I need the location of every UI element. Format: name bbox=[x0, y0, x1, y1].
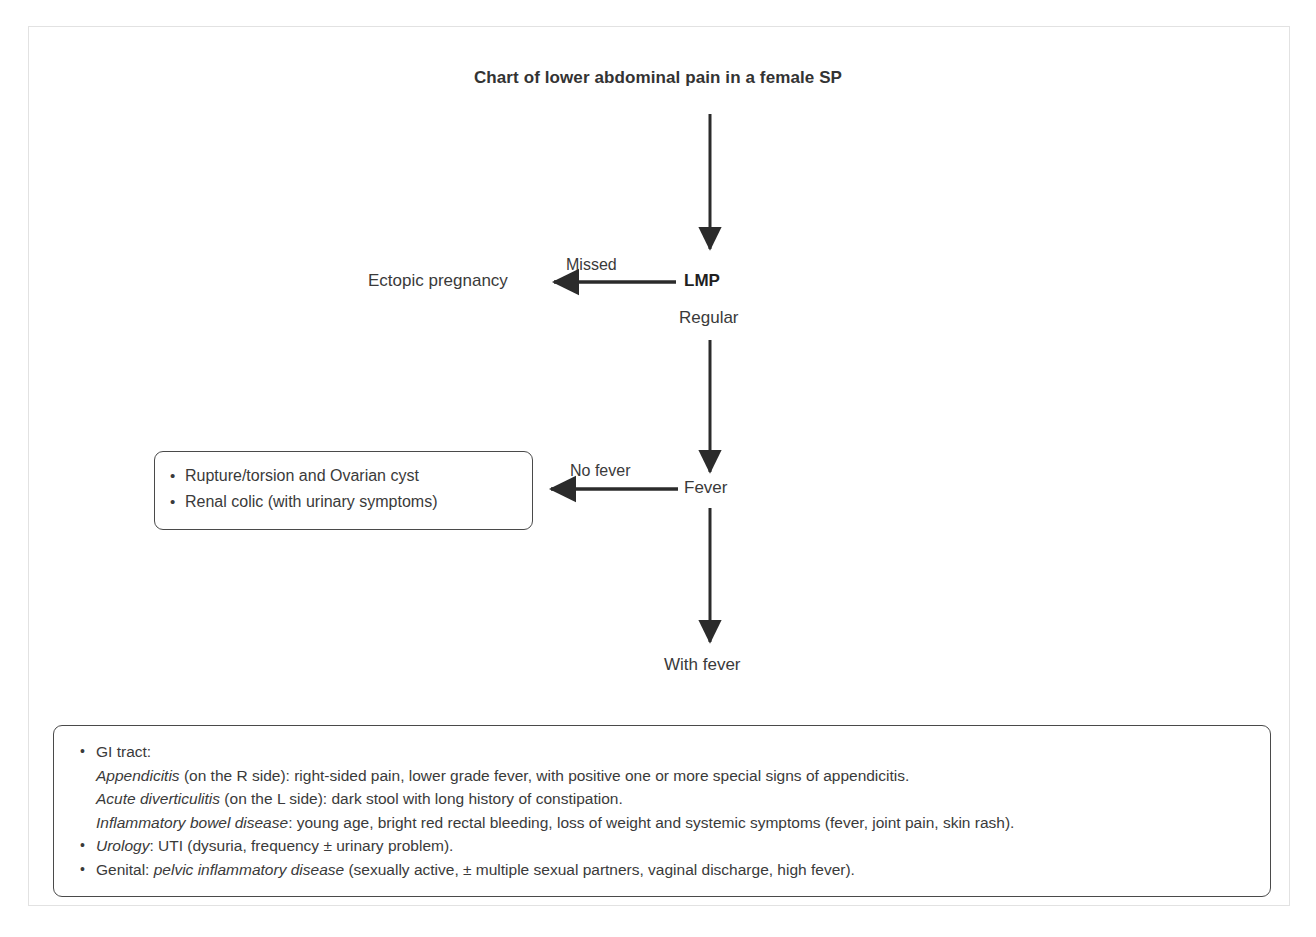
detail-heading-gi-tract: GI tract: bbox=[96, 740, 1270, 764]
desc-inflammatory-bowel-disease: : young age, bright red rectal bleeding,… bbox=[288, 814, 1014, 831]
list-item: Rupture/torsion and Ovarian cyst bbox=[185, 463, 532, 489]
detail-line-appendicitis: Appendicitis (on the R side): right-side… bbox=[96, 764, 1270, 788]
page-title: Chart of lower abdominal pain in a femal… bbox=[0, 68, 1316, 88]
detail-box: GI tract: Appendicitis (on the R side): … bbox=[53, 725, 1271, 897]
list-item: Renal colic (with urinary symptoms) bbox=[185, 489, 532, 515]
term-genital: Genital: bbox=[96, 861, 154, 878]
node-with-fever: With fever bbox=[664, 655, 741, 675]
node-fever: Fever bbox=[684, 478, 727, 498]
detail-line-inflammatory-bowel-disease: Inflammatory bowel disease: young age, b… bbox=[96, 811, 1270, 835]
outcome-box: Rupture/torsion and Ovarian cyst Renal c… bbox=[154, 451, 533, 530]
diagram-page: Chart of lower abdominal pain in a femal… bbox=[0, 0, 1316, 937]
term-urology: Urology bbox=[96, 837, 149, 854]
edge-label-no-fever: No fever bbox=[570, 462, 630, 480]
desc-appendicitis: (on the R side): right-sided pain, lower… bbox=[180, 767, 910, 784]
desc-urology: : UTI (dysuria, frequency ± urinary prob… bbox=[149, 837, 453, 854]
list-item-gi-tract: GI tract: Appendicitis (on the R side): … bbox=[96, 740, 1270, 834]
term-pelvic-inflammatory-disease: pelvic inflammatory disease bbox=[154, 861, 344, 878]
edge-label-missed: Missed bbox=[566, 256, 617, 274]
detail-line-acute-diverticulitis: Acute diverticulitis (on the L side): da… bbox=[96, 787, 1270, 811]
desc-genital: (sexually active, ± multiple sexual part… bbox=[344, 861, 855, 878]
term-inflammatory-bowel-disease: Inflammatory bowel disease bbox=[96, 814, 288, 831]
detail-list: GI tract: Appendicitis (on the R side): … bbox=[54, 726, 1270, 881]
list-item-genital: Genital: pelvic inflammatory disease (se… bbox=[96, 858, 1270, 882]
desc-acute-diverticulitis: (on the L side): dark stool with long hi… bbox=[220, 790, 623, 807]
list-item-urology: Urology: UTI (dysuria, frequency ± urina… bbox=[96, 834, 1270, 858]
node-regular: Regular bbox=[679, 308, 739, 328]
term-acute-diverticulitis: Acute diverticulitis bbox=[96, 790, 220, 807]
node-lmp: LMP bbox=[684, 271, 720, 291]
outcome-list: Rupture/torsion and Ovarian cyst Renal c… bbox=[155, 452, 532, 515]
term-appendicitis: Appendicitis bbox=[96, 767, 180, 784]
node-ectopic-pregnancy: Ectopic pregnancy bbox=[368, 271, 508, 291]
